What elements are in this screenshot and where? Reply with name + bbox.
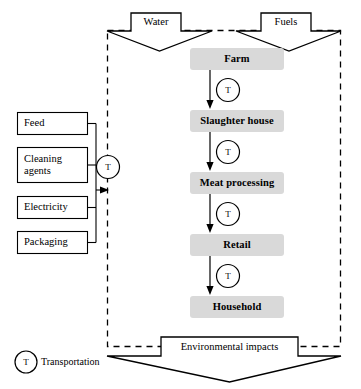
transport-label-retail-household: T — [216, 264, 240, 288]
input-label-electricity: Electricity — [17, 196, 94, 218]
process-label-meat-processing: Meat processing — [190, 172, 284, 194]
flow-diagram: Water Fuels Farm Slaughter house Meat pr… — [0, 0, 361, 389]
process-label-household: Household — [190, 296, 284, 318]
input-label-feed: Feed — [17, 112, 94, 134]
diagram-canvas — [0, 0, 361, 389]
input-label-packaging: Packaging — [17, 231, 94, 253]
transport-label-farm-slaughter: T — [216, 78, 240, 102]
transport-label-slaughter-meat: T — [216, 140, 240, 164]
process-label-slaughter-house: Slaughter house — [190, 110, 284, 132]
input-manifold — [88, 124, 105, 243]
legend-transport-symbol: T — [14, 350, 38, 374]
process-label-farm: Farm — [190, 48, 284, 70]
transport-label-inputs: T — [96, 155, 120, 179]
legend-transport-label: Transportation — [41, 352, 151, 372]
environmental-impacts-label: Environmental impacts — [161, 337, 298, 356]
water-label: Water — [131, 13, 181, 31]
process-label-retail: Retail — [190, 234, 284, 256]
transport-label-meat-retail: T — [216, 202, 240, 226]
input-label-cleaning-agents: Cleaning agents — [17, 147, 94, 182]
fuels-label: Fuels — [261, 13, 311, 31]
